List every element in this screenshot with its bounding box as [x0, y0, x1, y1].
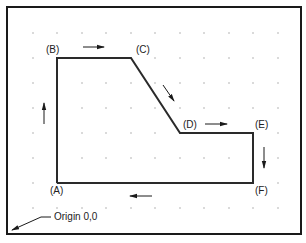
grid-dot	[130, 82, 131, 83]
direction-arrows	[44, 47, 264, 196]
grid-dot	[130, 32, 131, 33]
grid-dot	[252, 207, 253, 208]
grid-dot	[32, 107, 33, 108]
origin-leader-arrow	[12, 217, 51, 230]
grid-dot	[154, 82, 155, 83]
grid-dot	[228, 207, 229, 208]
grid-dot	[228, 57, 229, 58]
grid-dot	[203, 107, 204, 108]
grid-dot	[32, 182, 33, 183]
grid-dot	[252, 32, 253, 33]
grid-dot	[154, 57, 155, 58]
grid-dot	[32, 82, 33, 83]
grid-dot	[277, 57, 278, 58]
grid-dot	[32, 32, 33, 33]
grid-dot	[252, 107, 253, 108]
grid-dot	[277, 157, 278, 158]
grid-dot	[32, 157, 33, 158]
grid-dot	[277, 82, 278, 83]
direction-arrow-icon	[163, 85, 174, 101]
grid-dot	[179, 57, 180, 58]
grid-dot	[179, 207, 180, 208]
grid-dot	[154, 32, 155, 33]
grid-dot	[252, 82, 253, 83]
grid-dot	[56, 32, 57, 33]
point-label-f: (F)	[255, 186, 268, 196]
grid-dot	[130, 207, 131, 208]
grid-dot	[154, 132, 155, 133]
grid-dot	[81, 32, 82, 33]
grid-dot	[154, 207, 155, 208]
grid-dot	[203, 32, 204, 33]
point-label-b: (B)	[46, 45, 59, 55]
grid-dot	[203, 157, 204, 158]
grid-dot	[277, 182, 278, 183]
grid-dot	[203, 82, 204, 83]
grid-dot	[32, 132, 33, 133]
point-label-e: (E)	[255, 120, 268, 130]
grid-dot	[32, 207, 33, 208]
grid-dot	[203, 207, 204, 208]
grid-dot	[179, 107, 180, 108]
grid-dot	[154, 107, 155, 108]
grid-dot	[105, 207, 106, 208]
grid-dot	[277, 107, 278, 108]
grid-dot	[130, 107, 131, 108]
grid-dot	[203, 57, 204, 58]
grid-dot	[154, 157, 155, 158]
grid-dot	[81, 107, 82, 108]
grid-dot	[32, 57, 33, 58]
point-label-c: (C)	[136, 45, 150, 55]
grid-dot	[179, 157, 180, 158]
grid-dot	[105, 132, 106, 133]
grid-dot	[277, 132, 278, 133]
origin-label: Origin 0,0	[54, 212, 97, 222]
grid-dot	[105, 32, 106, 33]
grid-dot	[130, 157, 131, 158]
grid-dot	[81, 157, 82, 158]
diagram-canvas: (A) (B) (C) (D) (E) (F) Origin 0,0	[0, 0, 306, 243]
grid-dot	[105, 107, 106, 108]
grid-dot	[105, 82, 106, 83]
point-label-a: (A)	[50, 186, 63, 196]
grid-dot	[130, 132, 131, 133]
grid-dot	[81, 207, 82, 208]
grid-dot	[179, 82, 180, 83]
grid-dot	[179, 32, 180, 33]
grid-dot	[56, 207, 57, 208]
grid-dot	[81, 82, 82, 83]
point-label-d: (D)	[183, 120, 197, 130]
grid-dot	[228, 157, 229, 158]
grid-dot	[105, 157, 106, 158]
grid-dot	[228, 82, 229, 83]
grid-dot	[81, 132, 82, 133]
grid-dot	[277, 207, 278, 208]
grid-dot	[252, 57, 253, 58]
grid-dot	[228, 32, 229, 33]
grid-dot	[277, 32, 278, 33]
toolpath-outline	[57, 58, 253, 183]
grid-dot	[228, 107, 229, 108]
